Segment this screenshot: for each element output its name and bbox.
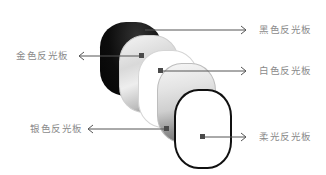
- label-silver-reflector: 银色反光板: [30, 123, 83, 135]
- label-black-reflector: 黑色反光板: [259, 24, 312, 36]
- white-marker-icon: [158, 68, 163, 73]
- label-gold-reflector: 金色反光板: [16, 50, 69, 62]
- label-diffuse-reflector: 柔光反光板: [259, 131, 312, 143]
- label-white-reflector: 白色反光板: [259, 65, 312, 77]
- diffuse-marker-icon: [200, 134, 205, 139]
- gold-marker-icon: [139, 53, 144, 58]
- silver-marker-icon: [164, 126, 169, 131]
- reflector-diagram: 黑色反光板 金色反光板 白色反光板 银色反光板 柔光反光板: [0, 0, 326, 175]
